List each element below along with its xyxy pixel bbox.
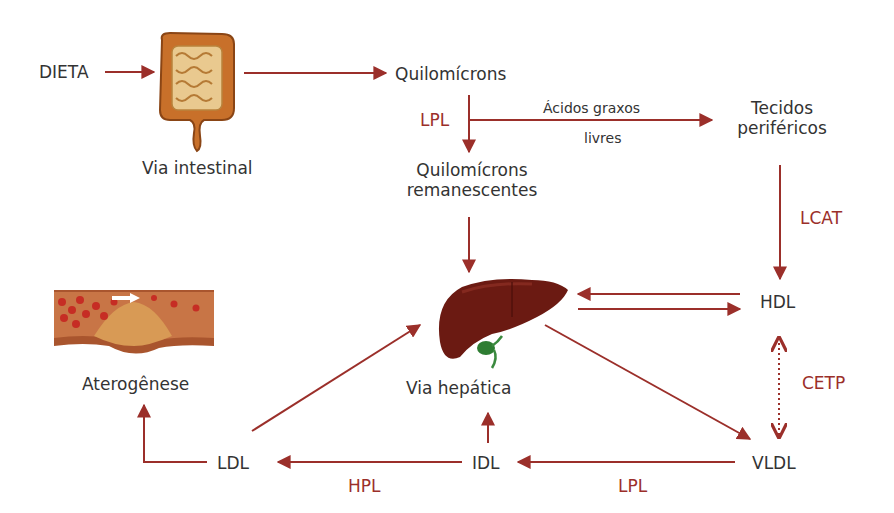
enzyme-hpl: HPL [348, 476, 381, 496]
node-tecidos-perifericos: Tecidos periféricos [722, 98, 842, 138]
enzyme-lcat: LCAT [800, 208, 842, 228]
arrow-ldl-aterogenese [144, 405, 207, 462]
lipoprotein-metabolism-diagram: DIETA Via intestinal Quilomícrons Quilom… [0, 0, 894, 513]
node-via-hepatica: Via hepática [406, 378, 511, 398]
edge-label-livres: livres [584, 128, 621, 148]
node-vldl: VLDL [752, 453, 796, 473]
node-tecidos-line2: periféricos [722, 118, 842, 138]
edge-label-acidos-graxos: Ácidos graxos [543, 98, 640, 118]
node-idl: IDL [472, 453, 500, 473]
intestine-icon [152, 28, 242, 153]
node-via-intestinal: Via intestinal [142, 158, 253, 178]
node-tecidos-line1: Tecidos [722, 98, 842, 118]
enzyme-lpl-bottom: LPL [618, 476, 647, 496]
node-aterogenese: Aterogênese [82, 374, 189, 394]
liver-icon [432, 272, 572, 372]
node-quilomicrons-remanescentes: Quilomícrons remanescentes [397, 160, 547, 200]
node-dieta: DIETA [39, 62, 89, 82]
arrow-ldl-liver [252, 325, 420, 431]
arrow-liver-vldl [545, 325, 750, 439]
node-quilomicrons-remanescentes-line2: remanescentes [397, 180, 547, 200]
artery-plaque-icon [54, 284, 214, 356]
node-quilomicrons: Quilomícrons [395, 64, 506, 84]
node-ldl: LDL [217, 453, 249, 473]
node-quilomicrons-remanescentes-line1: Quilomícrons [397, 160, 547, 180]
enzyme-lpl-top: LPL [420, 110, 449, 130]
enzyme-cetp: CETP [802, 373, 845, 393]
node-hdl: HDL [760, 292, 795, 312]
